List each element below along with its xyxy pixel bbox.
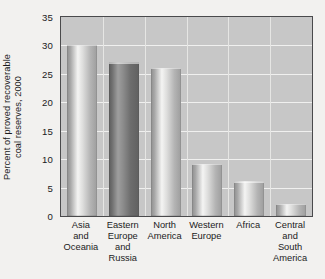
x-axis-label-line-3: South	[269, 242, 311, 253]
y-axis-title-line-1: Percent of proved recoverable	[2, 54, 12, 180]
bar-chart-figure: Percent of proved recoverable coal reser…	[0, 0, 325, 279]
bar-top-highlight	[151, 68, 181, 70]
x-axis-label-eastern-europe-and-russia: EasternEuropeandRussia	[102, 220, 144, 264]
x-axis-label-line-3: Oceania	[60, 242, 102, 253]
x-axis-label-line-1: Africa	[227, 220, 269, 231]
x-axis-label-line-1: Western	[186, 220, 228, 231]
x-axis-label-line-1: Eastern	[102, 220, 144, 231]
x-axis-label-line-2: Europe	[186, 231, 228, 242]
y-axis-tick-20: 20	[42, 97, 53, 108]
bar-africa	[234, 181, 264, 216]
x-axis-label-line-2: and	[269, 231, 311, 242]
bar-asia-and-oceania	[67, 45, 97, 216]
x-axis-label-line-4: Russia	[102, 253, 144, 264]
bar-eastern-europe-and-russia	[109, 62, 139, 216]
x-axis-label-line-4: America	[269, 253, 311, 264]
bar-top-highlight	[234, 181, 264, 183]
y-axis-tick-labels: 05101520253035	[26, 16, 57, 217]
y-axis-tick-10: 10	[42, 154, 53, 165]
bar-central-and-south-america	[276, 204, 306, 217]
x-axis-label-africa: Africa	[227, 220, 269, 231]
bar-series	[61, 17, 312, 216]
x-axis-label-line-2: America	[144, 231, 186, 242]
y-axis-tick-25: 25	[42, 68, 53, 79]
y-axis-title-line-2: coal reserves, 2000	[13, 54, 24, 180]
bar-western-europe	[192, 164, 222, 216]
y-axis-tick-30: 30	[42, 40, 53, 51]
y-axis-title-text: Percent of proved recoverable coal reser…	[2, 54, 24, 180]
x-axis-label-line-3: and	[102, 242, 144, 253]
x-axis-label-line-1: Central	[269, 220, 311, 231]
x-axis-label-western-europe: WesternEurope	[186, 220, 228, 242]
bar-top-highlight	[67, 45, 97, 47]
y-axis-tick-0: 0	[47, 211, 53, 222]
x-axis-label-line-2: and	[60, 231, 102, 242]
x-axis-label-line-1: North	[144, 220, 186, 231]
y-axis-tick-35: 35	[42, 12, 53, 23]
bar-top-highlight	[276, 204, 306, 206]
x-axis-category-labels: AsiaandOceaniaEasternEuropeandRussiaNort…	[60, 220, 313, 278]
plot-area	[60, 16, 313, 217]
x-axis-label-line-1: Asia	[60, 220, 102, 231]
y-axis-tick-5: 5	[47, 182, 53, 193]
bar-top-highlight	[192, 164, 222, 166]
y-axis-tick-15: 15	[42, 125, 53, 136]
x-axis-label-asia-and-oceania: AsiaandOceania	[60, 220, 102, 253]
plot-inner	[61, 17, 312, 216]
bar-top-highlight	[109, 62, 139, 64]
x-axis-label-line-2: Europe	[102, 231, 144, 242]
x-axis-label-north-america: NorthAmerica	[144, 220, 186, 242]
bar-north-america	[151, 68, 181, 216]
x-axis-label-central-and-south-america: CentralandSouthAmerica	[269, 220, 311, 264]
y-axis-title: Percent of proved recoverable coal reser…	[0, 16, 26, 217]
